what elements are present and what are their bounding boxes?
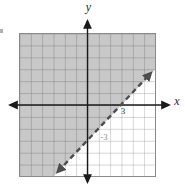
x-axis-label: x (173, 94, 180, 108)
inequality-graph-figure: y x 3 -3 (0, 0, 185, 191)
y-intercept-label-neg3: -3 (100, 132, 108, 142)
x-tick-label-3: 3 (121, 106, 126, 116)
coordinate-plane: y x 3 -3 (0, 0, 185, 191)
y-axis-label: y (85, 0, 92, 14)
